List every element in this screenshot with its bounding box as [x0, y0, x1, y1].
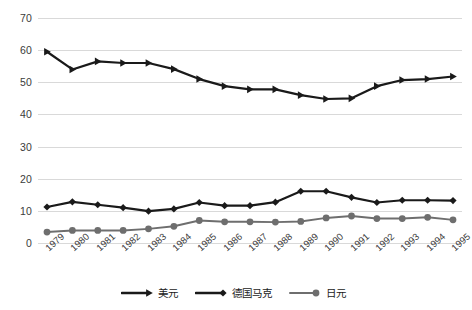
data-point-marker	[171, 65, 178, 73]
series-德国马克	[43, 188, 456, 215]
data-point-marker	[94, 201, 101, 208]
data-point-marker	[272, 219, 279, 226]
data-point-marker	[222, 82, 229, 90]
legend-item-日元[interactable]: 日元	[289, 287, 346, 299]
y-axis-tick-label: 30	[20, 142, 32, 152]
data-point-marker	[170, 205, 177, 212]
data-point-marker	[323, 95, 330, 103]
data-point-marker	[69, 198, 76, 205]
data-point-marker	[374, 82, 381, 90]
data-point-marker	[170, 223, 177, 230]
data-point-marker	[196, 75, 203, 83]
data-point-marker	[424, 214, 431, 221]
legend-label: 日元	[326, 287, 346, 299]
data-point-marker	[44, 229, 51, 236]
data-point-marker	[247, 218, 254, 225]
series-line	[47, 52, 453, 99]
data-point-marker	[69, 227, 76, 234]
data-point-marker	[43, 203, 50, 210]
data-point-marker	[145, 208, 152, 215]
data-point-marker	[94, 227, 101, 234]
data-point-marker	[120, 59, 127, 67]
series-美元	[44, 48, 457, 103]
data-point-marker	[219, 289, 226, 296]
data-point-marker	[425, 75, 432, 83]
y-axis-tick-label: 10	[20, 206, 32, 216]
data-point-marker	[313, 290, 320, 297]
data-point-marker	[348, 194, 355, 201]
data-point-marker	[399, 76, 406, 84]
y-axis-tick-label: 40	[20, 109, 32, 119]
legend-item-德国马克[interactable]: 德国马克	[195, 287, 272, 299]
data-point-marker	[95, 58, 102, 66]
legend-label: 美元	[158, 287, 178, 299]
data-point-marker	[399, 215, 406, 222]
data-point-marker	[120, 227, 127, 234]
data-point-marker	[450, 216, 457, 223]
legend-item-美元[interactable]: 美元	[121, 287, 178, 299]
data-point-marker	[450, 73, 457, 81]
data-point-marker	[298, 91, 305, 99]
data-point-marker	[449, 197, 456, 204]
series-日元	[44, 213, 457, 236]
y-axis-tick-label: 20	[20, 174, 32, 184]
data-point-marker	[297, 218, 304, 225]
data-point-marker	[196, 199, 203, 206]
y-axis-tick-label: 60	[20, 45, 32, 55]
plot-area	[38, 18, 462, 243]
y-axis: 706050403020100	[0, 18, 32, 243]
legend-marker-circle-icon	[289, 287, 323, 299]
data-point-marker	[348, 213, 355, 220]
data-point-marker	[373, 199, 380, 206]
data-point-marker	[399, 197, 406, 204]
legend-label: 德国马克	[232, 287, 272, 299]
data-point-marker	[70, 66, 77, 74]
data-point-marker	[349, 95, 356, 103]
chart-legend: 美元德国马克日元	[0, 283, 467, 303]
data-point-marker	[424, 197, 431, 204]
data-point-marker	[273, 86, 280, 94]
series-layer	[38, 18, 462, 243]
x-axis: 1979198019811982198319841985198619871988…	[38, 245, 462, 279]
y-axis-tick-label: 50	[20, 77, 32, 87]
data-point-marker	[146, 59, 153, 67]
y-axis-tick-label: 0	[26, 238, 32, 248]
legend-marker-triangle-right-icon	[121, 287, 155, 299]
data-point-marker	[145, 225, 152, 232]
data-point-marker	[323, 215, 330, 222]
legend-marker-diamond-icon	[195, 287, 229, 299]
data-point-marker	[246, 202, 253, 209]
y-axis-tick-label: 70	[20, 13, 32, 23]
data-point-marker	[146, 289, 153, 297]
data-point-marker	[221, 218, 228, 225]
data-point-marker	[272, 199, 279, 206]
data-point-marker	[221, 202, 228, 209]
data-point-marker	[120, 204, 127, 211]
data-point-marker	[247, 86, 254, 94]
data-point-marker	[373, 215, 380, 222]
data-point-marker	[323, 188, 330, 195]
data-point-marker	[196, 217, 203, 224]
data-point-marker	[297, 188, 304, 195]
